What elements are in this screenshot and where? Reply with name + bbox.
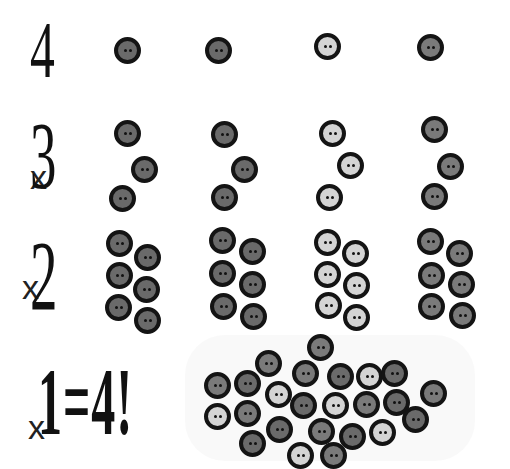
sewing-button-icon [356, 363, 383, 390]
sewing-button-icon [314, 229, 341, 256]
sewing-button-icon [381, 360, 408, 387]
sewing-button-icon [114, 120, 141, 147]
sewing-button-icon [418, 262, 445, 289]
sewing-button-icon [319, 120, 346, 147]
number-three: 3 [30, 108, 56, 204]
sewing-button-icon [342, 240, 369, 267]
sewing-button-icon [239, 238, 266, 265]
sewing-button-icon [209, 260, 236, 287]
sewing-button-icon [322, 392, 349, 419]
sewing-button-icon [437, 153, 464, 180]
sewing-button-icon [131, 156, 158, 183]
sewing-button-icon [255, 350, 282, 377]
sewing-button-icon [106, 230, 133, 257]
sewing-button-icon [234, 400, 261, 427]
sewing-button-icon [343, 304, 370, 331]
sewing-button-icon [315, 292, 342, 319]
sewing-button-icon [109, 185, 136, 212]
sewing-button-icon [234, 370, 261, 397]
sewing-button-icon [446, 240, 473, 267]
sewing-button-icon [314, 33, 341, 60]
sewing-button-icon [266, 416, 293, 443]
sewing-button-icon [421, 183, 448, 210]
sewing-button-icon [418, 293, 445, 320]
sewing-button-icon [134, 307, 161, 334]
sewing-button-icon [353, 391, 380, 418]
sewing-button-icon [211, 184, 238, 211]
sewing-button-icon [417, 34, 444, 61]
sewing-button-icon [316, 184, 343, 211]
sewing-button-icon [265, 381, 292, 408]
sewing-button-icon [417, 228, 444, 255]
sewing-button-icon [337, 152, 364, 179]
sewing-button-icon [134, 244, 161, 271]
sewing-button-icon [209, 227, 236, 254]
sewing-button-icon [308, 418, 335, 445]
equation-one-equals-four-factorial: 1=4! [38, 354, 133, 450]
number-two: 2 [30, 226, 58, 326]
sewing-button-icon [239, 430, 266, 457]
sewing-button-icon [421, 116, 448, 143]
sewing-button-icon [369, 419, 396, 446]
sewing-button-icon [320, 442, 347, 469]
sewing-button-icon [204, 403, 231, 430]
sewing-button-icon [133, 276, 160, 303]
sewing-button-icon [114, 37, 141, 64]
sewing-button-icon [314, 261, 341, 288]
sewing-button-icon [106, 262, 133, 289]
sewing-button-icon [231, 156, 258, 183]
sewing-button-icon [307, 334, 334, 361]
sewing-button-icon [448, 271, 475, 298]
sewing-button-icon [240, 303, 267, 330]
sewing-button-icon [210, 293, 237, 320]
sewing-button-icon [105, 294, 132, 321]
sewing-button-icon [204, 372, 231, 399]
sewing-button-icon [211, 121, 238, 148]
sewing-button-icon [327, 363, 354, 390]
sewing-button-icon [205, 37, 232, 64]
sewing-button-icon [290, 392, 317, 419]
sewing-button-icon [449, 302, 476, 329]
sewing-button-icon [292, 360, 319, 387]
sewing-button-icon [239, 271, 266, 298]
sewing-button-icon [402, 406, 429, 433]
number-four: 4 [30, 10, 55, 90]
sewing-button-icon [287, 442, 314, 469]
sewing-button-icon [420, 380, 447, 407]
sewing-button-icon [343, 272, 370, 299]
